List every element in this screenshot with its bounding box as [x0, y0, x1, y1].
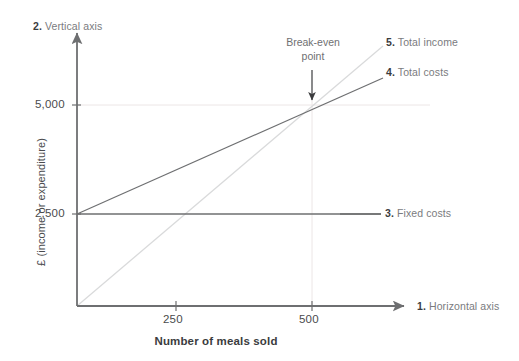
callout-vertical-axis-number: 2.	[33, 20, 42, 32]
callout-horizontal-axis: 1. Horizontal axis	[417, 300, 499, 313]
callout-total-income-number: 5.	[386, 36, 395, 48]
x-axis-title: Number of meals sold	[116, 335, 316, 347]
series-line-total-income	[77, 46, 383, 306]
callout-total-costs-number: 4.	[386, 66, 395, 78]
breakeven-point-annotation: Break-even point	[273, 36, 353, 63]
callout-horizontal-axis-number: 1.	[417, 300, 426, 312]
callout-total-costs-label: Total costs	[398, 66, 449, 78]
callout-fixed-costs-number: 3.	[385, 207, 394, 219]
breakeven-annotation-line2: point	[273, 50, 353, 64]
break-even-chart: Break-even point 2. Vertical axis 1. Hor…	[0, 0, 519, 361]
y-axis-title: £ (income or expenditure)	[35, 122, 47, 282]
callout-fixed-costs: 3. Fixed costs	[385, 207, 451, 220]
callout-vertical-axis-label: Vertical axis	[45, 20, 102, 32]
breakeven-annotation-line1: Break-even	[273, 36, 353, 50]
callout-total-income-label: Total income	[398, 36, 458, 48]
callout-total-income: 5. Total income	[386, 36, 458, 49]
callout-total-costs: 4. Total costs	[386, 66, 449, 79]
y-axis-tick-label-5000: 5,000	[35, 98, 65, 110]
x-axis-tick-label-250: 250	[163, 313, 183, 325]
series-line-total-costs	[77, 78, 383, 214]
callout-vertical-axis: 2. Vertical axis	[33, 20, 102, 33]
callout-fixed-costs-label: Fixed costs	[397, 207, 451, 219]
callout-horizontal-axis-label: Horizontal axis	[429, 300, 499, 312]
x-axis-tick-label-500: 500	[299, 313, 319, 325]
